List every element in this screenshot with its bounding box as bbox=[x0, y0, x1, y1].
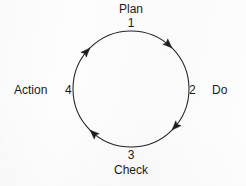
pdca-diagram-canvas: Plan 1 2 Do 3 Check Action 4 bbox=[0, 0, 246, 186]
node-number-check: 3 bbox=[0, 149, 246, 161]
node-number-action: 4 bbox=[65, 84, 72, 96]
node-label-do: Do bbox=[212, 84, 227, 96]
node-label-check: Check bbox=[0, 164, 246, 176]
node-label-plan: Plan bbox=[0, 3, 246, 15]
node-number-plan: 1 bbox=[0, 17, 246, 29]
node-label-action: Action bbox=[14, 84, 47, 96]
cycle-circle bbox=[73, 31, 189, 147]
node-number-do: 2 bbox=[189, 84, 196, 96]
